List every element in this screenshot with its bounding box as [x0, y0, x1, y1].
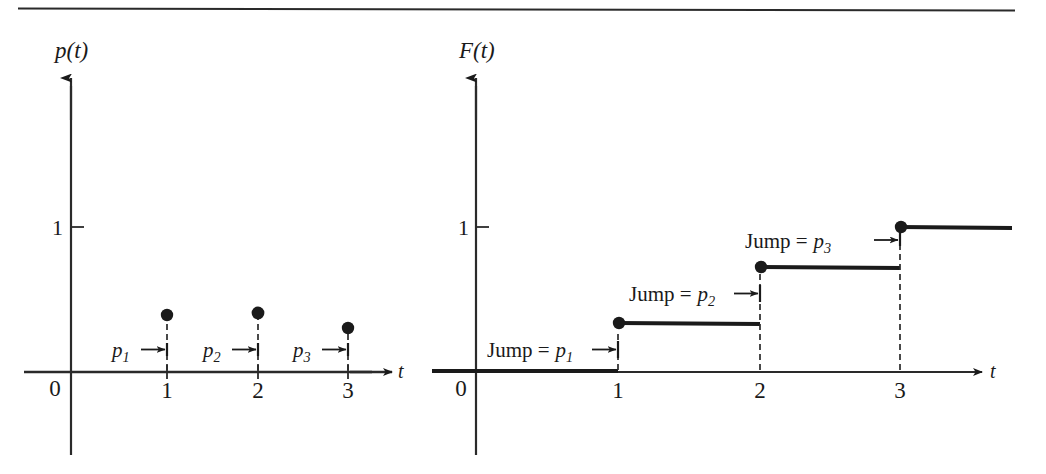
pmf-jump-label-1-base: p	[110, 338, 123, 362]
cdf-y-tick-label: 1	[458, 215, 469, 240]
cdf-jump-label-3-base: p	[812, 229, 825, 253]
cdf-jump-label-1-base: p	[554, 338, 567, 362]
pmf-jump-label-2-sub: 2	[214, 349, 221, 365]
pmf-panel: p(t) t 0 1 1 2 3 p1	[24, 38, 404, 455]
cdf-x-axis-label: t	[990, 360, 996, 382]
cdf-point-1	[613, 317, 625, 329]
pmf-x-tick-label-1: 1	[161, 378, 173, 403]
cdf-jump-label-2-base: p	[696, 282, 709, 306]
pmf-point-2	[252, 307, 265, 320]
cdf-y-axis-label: F(t)	[458, 38, 495, 63]
pmf-jump-label-2-base: p	[201, 338, 214, 362]
cdf-step-segment-2	[760, 267, 900, 268]
cdf-jump-label-2-sub: 2	[708, 293, 715, 309]
pmf-jump-label-3-sub: 3	[303, 349, 311, 365]
cdf-jump-label-3: Jump =p3	[745, 229, 831, 256]
cdf-jump-label-1-sub: 1	[566, 349, 573, 365]
cdf-point-2	[755, 261, 767, 273]
pmf-x-tick-label-3: 3	[342, 378, 354, 403]
cdf-step-segment-1	[618, 323, 760, 324]
pmf-jump-label-3-base: p	[291, 338, 304, 362]
pmf-x-axis-label: t	[398, 360, 404, 382]
top-rule	[18, 9, 1015, 11]
cdf-x-tick-label-2: 2	[754, 378, 766, 403]
pmf-y-tick-label: 1	[52, 215, 63, 240]
figure-container: p(t) t 0 1 1 2 3 p1	[0, 0, 1046, 474]
pmf-jump-label-1-sub: 1	[123, 349, 130, 365]
pmf-point-3	[342, 322, 354, 334]
cdf-panel: F(t) t 0 1 1 2 3	[432, 38, 1012, 455]
cdf-jump-label-1: Jump =p1	[487, 338, 573, 365]
figure-svg: p(t) t 0 1 1 2 3 p1	[0, 0, 1046, 474]
pmf-x-tick-label-2: 2	[252, 378, 264, 403]
cdf-jump-label-3-prefix: Jump =	[745, 229, 808, 253]
pmf-y-axis-label: p(t)	[53, 38, 88, 63]
cdf-jump-label-2: Jump =p2	[629, 282, 715, 309]
cdf-x-tick-label-1: 1	[612, 378, 624, 403]
cdf-jump-label-1-prefix: Jump =	[487, 338, 550, 362]
cdf-origin-label: 0	[455, 376, 467, 401]
pmf-jump-label-2: p2	[201, 338, 221, 365]
cdf-step-segment-3	[900, 227, 1012, 228]
pmf-jump-label-1: p1	[110, 338, 130, 365]
cdf-jump-label-2-prefix: Jump =	[629, 282, 692, 306]
pmf-point-1	[161, 309, 173, 321]
pmf-origin-label: 0	[49, 376, 61, 401]
cdf-x-tick-label-3: 3	[894, 378, 906, 403]
cdf-jump-label-3-sub: 3	[823, 240, 831, 256]
pmf-jump-label-3: p3	[291, 338, 311, 365]
